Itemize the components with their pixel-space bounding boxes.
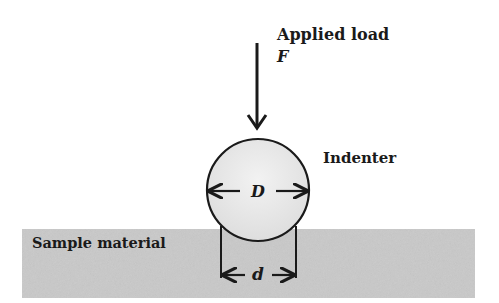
indent-diameter-symbol: d <box>252 264 264 284</box>
sample-material-label: Sample material <box>32 234 166 251</box>
force-symbol: F <box>276 47 290 66</box>
applied-load-label: Applied load <box>276 25 389 44</box>
applied-load-arrow-icon <box>248 43 266 128</box>
indenter-label: Indenter <box>323 149 397 167</box>
ball-diameter-symbol: D <box>250 182 265 201</box>
indentation-diagram: Applied load F Indenter D Sample materia… <box>0 0 499 303</box>
